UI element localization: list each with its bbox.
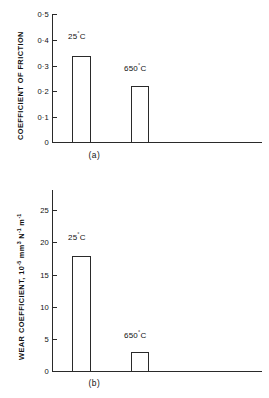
y-axis-label-exp-4: -1 [16,214,22,219]
y-tick-a-3 [53,91,57,92]
y-ticklabel-a-5: 0 [26,138,49,147]
panel-b-caption: (b) [0,378,229,388]
bar-b-650c-label: 650°C [124,329,146,340]
y-tick-b-4 [53,339,57,340]
y-ticklabel-b-3: 10 [28,303,49,312]
bar-a-650c-label: 650°C [124,62,146,73]
y-ticklabel-a-4: 0·1 [26,113,49,122]
y-tick-a-4 [53,117,57,118]
y-axis-label-mid-1: mm [17,244,26,261]
y-tick-a-1 [53,40,57,41]
y-ticklabel-b-2: 15 [28,271,49,280]
y-tick-b-3 [53,307,57,308]
y-ticklabel-b-1: 20 [28,238,49,247]
y-axis-label-friction: COEFFICIENT OF FRICTION [16,31,25,140]
bar-b-25c [72,256,91,372]
y-ticklabel-b-5: 0 [28,367,49,376]
bar-b-650c-value: 650 [124,331,138,340]
y-tick-a-0 [53,14,57,15]
bar-a-25c-label: 25°C [68,30,86,41]
y-tick-a-2 [53,66,57,67]
y-tick-b-2 [53,275,57,276]
y-tick-b-0 [53,210,57,211]
panel-a-caption: (a) [0,150,229,160]
y-tick-b-5 [53,371,57,372]
panel-b: WEAR COEFFICIENT, 10-5 mm3 N-1 m-1 25 20… [0,185,269,398]
bar-b-25c-unit: C [80,233,86,242]
y-ticklabel-a-2: 0·3 [26,62,49,71]
y-axis-line-a [52,14,53,143]
y-ticklabel-a-0: 0·5 [26,10,49,19]
bar-a-25c-unit: C [80,32,86,41]
bar-b-25c-label: 25°C [68,231,86,242]
bar-a-25c [72,56,91,143]
y-axis-label-mid-2: N [17,233,26,241]
bar-b-650c-unit: C [140,331,146,340]
bar-a-25c-value: 25 [68,32,77,41]
y-tick-b-1 [53,242,57,243]
y-ticklabel-a-3: 0·2 [26,87,49,96]
y-axis-label-exp-1: -5 [16,261,22,266]
y-ticklabel-b-4: 5 [28,335,49,344]
y-tick-a-5 [53,142,57,143]
figure-two-panel-bar-charts: COEFFICIENT OF FRICTION 0·5 0·4 0·3 0·2 … [0,0,269,398]
y-ticklabel-b-0: 25 [28,206,49,215]
bar-b-25c-value: 25 [68,233,77,242]
bar-b-650c [131,352,149,372]
y-axis-label-exp-2: 3 [16,241,22,244]
y-axis-label-exp-3: -1 [16,228,22,233]
y-axis-label-wear-text: WEAR COEFFICIENT, 10 [17,266,26,360]
bar-a-650c [131,86,149,143]
y-axis-label-mid-3: m [17,219,26,229]
panel-a: COEFFICIENT OF FRICTION 0·5 0·4 0·3 0·2 … [0,0,269,175]
bar-a-650c-unit: C [140,64,146,73]
y-axis-line-b [52,190,53,372]
y-ticklabel-a-1: 0·4 [26,36,49,45]
y-axis-label-wear: WEAR COEFFICIENT, 10-5 mm3 N-1 m-1 [16,214,26,360]
bar-a-650c-value: 650 [124,64,138,73]
